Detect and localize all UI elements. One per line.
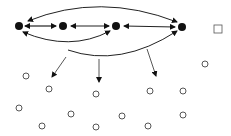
open-node [23,73,29,79]
open-node [147,88,153,94]
open-node [46,86,52,92]
open-node [180,112,186,118]
filled-node-n1 [15,22,23,30]
square-node [214,25,222,33]
filled-node-n2 [59,22,67,30]
open-node [39,123,45,129]
open-node [145,123,151,129]
open-nodes [16,61,208,130]
arrow-down-left [52,57,66,77]
curved-edges [23,7,177,56]
arc-to-n4-bottom [68,31,177,56]
arc-n1-n4-top [28,7,177,22]
down-arrows [52,49,156,82]
arc-n3-n1-bottom [23,31,110,42]
arrow-down-right [147,49,156,76]
open-node [180,88,186,94]
filled-node-n3 [112,22,120,30]
filled-node-n4 [178,23,186,31]
straight-edges [25,26,175,27]
open-node [202,61,208,67]
edge-n3-n4 [124,26,175,27]
open-node [93,124,99,130]
diagram-canvas [0,0,231,136]
open-node [119,113,125,119]
open-node [68,111,74,117]
open-node [93,91,99,97]
open-node [16,105,22,111]
